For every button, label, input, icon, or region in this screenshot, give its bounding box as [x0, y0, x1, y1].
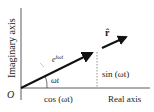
vector-label: eiωt [52, 54, 63, 64]
angle-arc [46, 77, 48, 88]
vector-tick-mark [40, 63, 44, 67]
cos-component-label: cos (ωt) [44, 94, 73, 104]
origin-label: O [7, 89, 14, 100]
sin-component-label: sin (ωt) [102, 69, 129, 79]
unit-vector-label: r̂ [105, 27, 110, 38]
angle-label: ωt [51, 76, 60, 85]
y-axis-label: Imaginary axis [6, 18, 17, 78]
x-axis-label: Real axis [108, 94, 142, 104]
phasor-diagram: Imaginary axis O Real axis cos (ωt) sin … [0, 0, 154, 112]
unit-vector-r-hat [102, 37, 126, 48]
vector-label-exponent: iωt [56, 54, 64, 60]
